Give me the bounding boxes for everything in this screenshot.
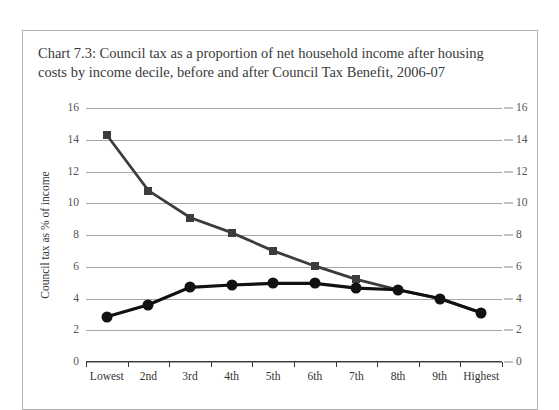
y-axis-tick-mark-right <box>504 362 513 363</box>
series-line <box>107 283 481 316</box>
x-axis-tick-label: 9th <box>432 370 447 382</box>
y-axis-tick-label-right: 0 <box>516 356 544 368</box>
y-axis-tick-mark-right <box>504 235 513 236</box>
y-axis-tick-mark-right <box>504 171 513 172</box>
y-axis-tick-label-left: 4 <box>51 293 79 305</box>
series-line <box>107 135 481 313</box>
x-axis-tick-mark <box>86 362 87 367</box>
series-lines <box>86 108 502 362</box>
data-point-marker <box>393 284 404 295</box>
data-point-marker <box>311 262 319 270</box>
data-point-marker <box>101 311 112 322</box>
data-point-marker <box>351 283 362 294</box>
data-point-marker <box>144 187 152 195</box>
data-point-marker <box>309 278 320 289</box>
x-axis-tick-mark <box>294 362 295 367</box>
y-axis-tick-label-left: 16 <box>51 102 79 114</box>
y-axis-tick-label-left: 8 <box>51 229 79 241</box>
y-axis-tick-label-left: 10 <box>51 198 79 210</box>
x-axis-tick-label: 8th <box>391 370 406 382</box>
y-axis-tick-mark-right <box>504 108 513 109</box>
x-axis-tick-mark <box>252 362 253 367</box>
data-point-marker <box>226 280 237 291</box>
y-axis-tick-label-left: 0 <box>51 356 79 368</box>
x-axis-tick-label: 4th <box>224 370 239 382</box>
y-axis-tick-mark-right <box>504 266 513 267</box>
x-axis-tick-mark <box>419 362 420 367</box>
data-point-marker <box>186 214 194 222</box>
y-axis-tick-label-right: 16 <box>516 102 544 114</box>
y-axis-tick-label-right: 4 <box>516 293 544 305</box>
x-axis-tick-label: Highest <box>463 370 499 382</box>
y-axis-tick-mark-right <box>504 139 513 140</box>
y-axis-tick-label-right: 8 <box>516 229 544 241</box>
plot-area: 0246810121416 0246810121416 Lowest2nd3rd… <box>86 108 502 362</box>
y-axis-tick-label-left: 14 <box>51 134 79 146</box>
x-axis-tick-mark <box>377 362 378 367</box>
x-axis-tick-label: 6th <box>307 370 322 382</box>
chart-title: Chart 7.3: Council tax as a proportion o… <box>38 44 514 82</box>
data-point-marker <box>269 247 277 255</box>
x-axis-tick-mark <box>211 362 212 367</box>
x-axis-tick-label: 5th <box>266 370 281 382</box>
x-axis-tick-label: 2nd <box>140 370 157 382</box>
y-axis-tick-label-left: 12 <box>51 166 79 178</box>
x-axis-tick-mark <box>502 362 503 367</box>
y-axis-tick-label-right: 10 <box>516 198 544 210</box>
y-axis-tick-label-right: 6 <box>516 261 544 273</box>
y-axis-tick-label-left: 6 <box>51 261 79 273</box>
y-axis-tick-label-right: 14 <box>516 134 544 146</box>
y-axis-tick-mark-right <box>504 330 513 331</box>
data-point-marker <box>143 299 154 310</box>
y-axis-tick-label-right: 2 <box>516 325 544 337</box>
data-point-marker <box>103 131 111 139</box>
x-axis-tick-label: 3rd <box>182 370 197 382</box>
x-axis-tick-mark <box>169 362 170 367</box>
x-axis-tick-mark <box>128 362 129 367</box>
data-point-marker <box>185 282 196 293</box>
y-axis-tick-label-left: 2 <box>51 325 79 337</box>
y-axis-tick-mark-right <box>504 203 513 204</box>
x-axis-tick-mark <box>336 362 337 367</box>
y-axis-tick-mark-right <box>504 298 513 299</box>
x-axis-tick-label: Lowest <box>90 370 124 382</box>
data-point-marker <box>268 278 279 289</box>
x-axis-tick-label: 7th <box>349 370 364 382</box>
data-point-marker <box>434 293 445 304</box>
y-axis-title-text: Council tax as % of income <box>39 171 51 298</box>
data-point-marker <box>228 229 236 237</box>
x-axis-tick-mark <box>460 362 461 367</box>
y-axis-tick-label-right: 12 <box>516 166 544 178</box>
data-point-marker <box>476 307 487 318</box>
